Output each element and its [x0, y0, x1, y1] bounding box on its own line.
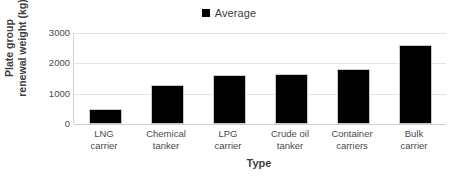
- x-tick-label-line: tanker: [135, 140, 197, 152]
- bar-bulk-carrier: [399, 45, 432, 124]
- bar-container-carriers: [337, 69, 370, 124]
- x-tick-label-bulk-carrier: Bulk carrier: [383, 128, 445, 154]
- plot-area: [73, 33, 446, 124]
- x-tick-label-line: Chemical: [135, 128, 197, 140]
- y-tick-label-2000: 2000: [44, 58, 70, 68]
- bar-slot-bulk-carrier: [384, 33, 446, 124]
- bar-lng-carrier: [89, 109, 122, 124]
- bar-slot-lng-carrier: [74, 33, 136, 124]
- bar-slot-crude-oil-tanker: [260, 33, 322, 124]
- x-tick-label-line: carriers: [321, 140, 383, 152]
- y-axis-title-line2: renewal weight (kg): [16, 0, 29, 97]
- bar-slot-container-carriers: [322, 33, 384, 124]
- x-tick-label-line: Bulk: [383, 128, 445, 140]
- bar-chemical-tanker: [151, 85, 184, 124]
- bar-series-average: [74, 33, 446, 124]
- x-tick-label-chemical-tanker: Chemical tanker: [135, 128, 197, 154]
- x-axis-ticks: LNG carrier Chemical tanker LPG carrier …: [73, 128, 445, 154]
- x-tick-label-line: LNG: [73, 128, 135, 140]
- x-tick-label-container-carriers: Container carriers: [321, 128, 383, 154]
- x-axis-title: Type: [73, 157, 445, 170]
- y-axis-title: Plate group renewal weight (kg): [1, 1, 31, 96]
- x-tick-label-lng-carrier: LNG carrier: [73, 128, 135, 154]
- x-tick-label-line: Container: [321, 128, 383, 140]
- chart-legend: Average: [0, 6, 458, 20]
- bar-lpg-carrier: [213, 75, 246, 124]
- y-tick-label-0: 0: [44, 119, 70, 129]
- x-tick-label-line: carrier: [383, 140, 445, 152]
- bar-chart: Average Plate group renewal weight (kg) …: [0, 0, 458, 180]
- bar-crude-oil-tanker: [275, 74, 308, 124]
- x-tick-label-line: carrier: [197, 140, 259, 152]
- x-tick-label-line: carrier: [73, 140, 135, 152]
- x-tick-label-lpg-carrier: LPG carrier: [197, 128, 259, 154]
- bar-slot-lpg-carrier: [198, 33, 260, 124]
- x-axis-baseline: [74, 124, 446, 125]
- y-axis-ticks: 3000 2000 1000 0: [44, 33, 70, 124]
- legend-label-average: Average: [215, 8, 256, 19]
- x-tick-label-line: tanker: [259, 140, 321, 152]
- bar-slot-chemical-tanker: [136, 33, 198, 124]
- x-tick-label-line: LPG: [197, 128, 259, 140]
- legend-swatch-average: [202, 9, 210, 17]
- y-tick-label-3000: 3000: [44, 28, 70, 38]
- x-tick-label-line: Crude oil: [259, 128, 321, 140]
- x-tick-label-crude-oil-tanker: Crude oil tanker: [259, 128, 321, 154]
- y-axis-title-line1: Plate group: [3, 19, 16, 77]
- y-tick-label-1000: 1000: [44, 89, 70, 99]
